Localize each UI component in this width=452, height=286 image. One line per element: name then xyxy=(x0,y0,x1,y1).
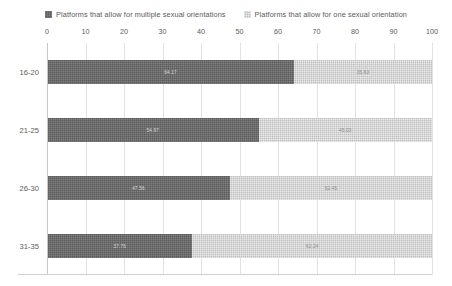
bar-segment[interactable]: 35.83 xyxy=(294,60,432,84)
legend-item-multiple-orientations[interactable]: Platforms that allow for multiple sexual… xyxy=(45,10,226,19)
x-axis-tick-labels: 0102030405060708090100 xyxy=(47,27,432,39)
bar-segment[interactable]: 62.24 xyxy=(192,234,432,258)
bar-value-label: 45.03 xyxy=(339,128,352,133)
x-tick-label: 30 xyxy=(159,27,167,36)
x-tick-label: 90 xyxy=(390,27,398,36)
bar-row[interactable]: 37.7662.24 xyxy=(47,234,432,258)
bar-value-label: 47.56 xyxy=(132,186,145,191)
y-category-label: 21-25 xyxy=(20,126,39,135)
y-axis-category-labels: 16-2021-2526-3031-35 xyxy=(0,43,47,275)
x-tick-label: 20 xyxy=(120,27,128,36)
x-tick-label: 80 xyxy=(351,27,359,36)
bar-value-label: 35.83 xyxy=(357,70,370,75)
bar-value-label: 37.76 xyxy=(113,244,126,249)
chart-legend: Platforms that allow for multiple sexual… xyxy=(0,10,452,19)
legend-item-label: Platforms that allow for multiple sexual… xyxy=(56,10,226,19)
legend-swatch-icon xyxy=(45,11,52,18)
legend-item-label: Platforms that allow for one sexual orie… xyxy=(255,10,407,19)
bar-row[interactable]: 47.5652.45 xyxy=(47,176,432,200)
bar-row[interactable]: 64.1735.83 xyxy=(47,60,432,84)
bar-value-label: 62.24 xyxy=(306,244,319,249)
x-tick-label: 40 xyxy=(197,27,205,36)
bar-segment[interactable]: 37.76 xyxy=(47,234,192,258)
bar-value-label: 52.45 xyxy=(325,186,338,191)
x-tick-label: 10 xyxy=(82,27,90,36)
stacked-bar-chart: Platforms that allow for multiple sexual… xyxy=(0,0,452,286)
bar-row[interactable]: 54.9745.03 xyxy=(47,118,432,142)
plot-area: 64.1735.8354.9745.0347.5652.4537.7662.24 xyxy=(47,43,432,275)
x-tick-label: 60 xyxy=(274,27,282,36)
legend-swatch-icon xyxy=(244,11,251,18)
x-tick-label: 100 xyxy=(426,27,438,36)
bar-value-label: 64.17 xyxy=(164,70,177,75)
bar-series-container: 64.1735.8354.9745.0347.5652.4537.7662.24 xyxy=(47,43,432,275)
y-category-label: 16-20 xyxy=(20,68,39,77)
bar-segment[interactable]: 64.17 xyxy=(47,60,294,84)
gridline xyxy=(432,43,433,275)
y-category-label: 31-35 xyxy=(20,242,39,251)
bar-value-label: 54.97 xyxy=(147,128,160,133)
x-tick-label: 70 xyxy=(313,27,321,36)
bar-segment[interactable]: 52.45 xyxy=(230,176,432,200)
legend-item-one-orientation[interactable]: Platforms that allow for one sexual orie… xyxy=(244,10,407,19)
y-category-label: 26-30 xyxy=(20,184,39,193)
bar-segment[interactable]: 45.03 xyxy=(259,118,432,142)
chart-baseline xyxy=(18,274,432,275)
x-tick-label: 0 xyxy=(45,27,49,36)
x-tick-label: 50 xyxy=(236,27,244,36)
bar-segment[interactable]: 54.97 xyxy=(47,118,259,142)
bar-segment[interactable]: 47.56 xyxy=(47,176,230,200)
y-axis-line xyxy=(47,43,48,275)
